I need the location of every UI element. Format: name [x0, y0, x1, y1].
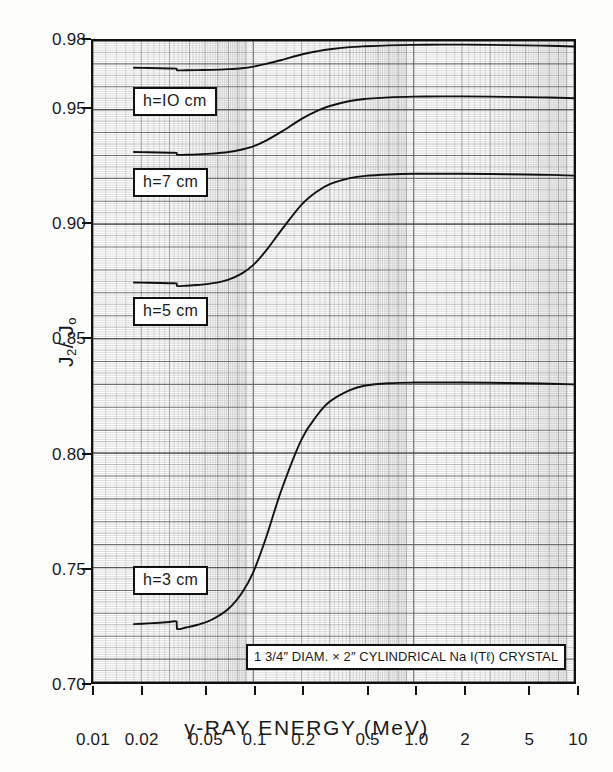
curve-label-h3cm: h=3 cm: [133, 566, 208, 595]
x-tick-mark: [141, 686, 143, 695]
x-tick-mark: [528, 686, 530, 695]
crystal-annotation: 1 3/4″ DIAM. × 2″ CYLINDRICAL Na I(Tℓ) C…: [246, 644, 566, 670]
y-tick-label: 0.95: [16, 100, 86, 117]
y-tick-mark: [82, 107, 91, 109]
x-axis-title: γ-RAY ENERGY (MeV): [0, 716, 613, 740]
curve-label-h7cm: h=7 cm: [133, 168, 208, 197]
y-tick-mark: [82, 683, 91, 685]
x-tick-mark: [415, 686, 417, 695]
y-tick-mark: [82, 38, 91, 40]
x-tick-mark: [205, 686, 207, 695]
crystal-annotation-text: 1 3/4″ DIAM. × 2″ CYLINDRICAL Na I(Tℓ) C…: [254, 649, 558, 664]
x-tick-mark: [254, 686, 256, 695]
y-tick-mark: [82, 568, 91, 570]
y-tick-label: 0.80: [16, 445, 86, 462]
curve-h10cm: [134, 45, 574, 71]
y-tick-label: 0.75: [16, 560, 86, 577]
x-tick-mark: [577, 686, 579, 695]
y-tick-label: 0.90: [16, 215, 86, 232]
y-tick-mark: [82, 453, 91, 455]
y-tick-label: 0.70: [16, 676, 86, 693]
x-tick-mark: [92, 686, 94, 695]
x-tick-mark: [367, 686, 369, 695]
curve-label-h5cm: h=5 cm: [133, 297, 208, 326]
y-tick-mark: [82, 222, 91, 224]
x-tick-mark: [464, 686, 466, 695]
y-tick-mark: [82, 337, 91, 339]
curve-label-hiocm: h=IO cm: [133, 87, 217, 116]
x-tick-mark: [302, 686, 304, 695]
y-tick-label: 0.85: [16, 330, 86, 347]
y-tick-label: 0.98: [16, 31, 86, 48]
figure-root: J2/ Jo 0.980.950.900.850.800.750.70 0.01…: [0, 0, 613, 772]
